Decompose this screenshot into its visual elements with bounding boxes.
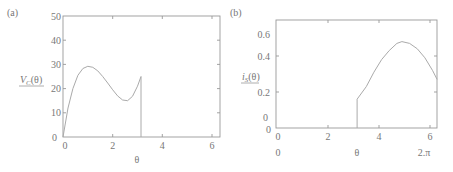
svg-text:0: 0 — [52, 132, 57, 143]
svg-text:0.6: 0.6 — [258, 29, 271, 40]
svg-text:10: 10 — [51, 107, 61, 118]
svg-text:6: 6 — [428, 131, 433, 142]
svg-text:2: 2 — [326, 131, 331, 142]
svg-text:40: 40 — [51, 35, 61, 46]
svg-text:0: 0 — [266, 124, 271, 135]
panel-a-curve — [63, 66, 141, 137]
svg-text:0: 0 — [276, 131, 281, 142]
svg-text:50: 50 — [51, 11, 61, 22]
panel-b-xticks: 0 2 4 6 — [276, 20, 433, 142]
panel-b-label: (b) — [230, 7, 242, 19]
svg-text:30: 30 — [51, 59, 61, 70]
svg-text:4: 4 — [160, 140, 165, 151]
panel-b-yticks: 0 0.2 0.4 0.6 0 — [258, 29, 438, 135]
svg-text:2: 2 — [110, 140, 115, 151]
panel-a-ylabel: VC(θ) — [19, 74, 44, 87]
panel-b-xlabels: 0 θ 2.π — [276, 147, 431, 158]
panel-b-curve — [357, 42, 437, 128]
figure: (a) 0 10 20 30 40 50 0 2 4 6 θ VC(θ) — [0, 0, 453, 172]
svg-text:20: 20 — [51, 83, 61, 94]
svg-text:iS(θ): iS(θ) — [242, 71, 260, 84]
svg-text:2.π: 2.π — [418, 147, 431, 158]
panel-b-ylabel: iS(θ) — [241, 71, 260, 84]
panel-b-frame — [276, 20, 437, 128]
panel-a-xlabel: θ — [135, 154, 140, 165]
svg-text:6: 6 — [210, 140, 215, 151]
panel-b-xlabel: θ — [355, 147, 360, 158]
panel-b: (b) 0 0.2 0.4 0.6 0 0 2 4 6 0 θ 2.π i — [230, 7, 437, 158]
panel-a-yticks: 0 10 20 30 40 50 — [51, 11, 220, 143]
svg-text:0: 0 — [63, 140, 68, 151]
svg-text:VC(θ): VC(θ) — [20, 74, 42, 87]
svg-text:4: 4 — [377, 131, 382, 142]
svg-text:0.2: 0.2 — [258, 87, 271, 98]
panel-a-label: (a) — [7, 7, 18, 19]
svg-text:0.4: 0.4 — [258, 51, 271, 62]
panel-a: (a) 0 10 20 30 40 50 0 2 4 6 θ VC(θ) — [7, 7, 220, 165]
panel-b-extra-ylabel: 0 — [263, 112, 268, 123]
svg-text:0: 0 — [276, 147, 281, 158]
